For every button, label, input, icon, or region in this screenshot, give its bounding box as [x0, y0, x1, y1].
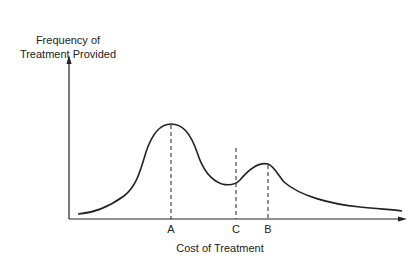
tick-label-b: B	[258, 223, 278, 235]
tick-label-c: C	[226, 223, 246, 235]
frequency-curve	[78, 124, 402, 214]
tick-label-a: A	[161, 223, 181, 235]
y-axis-label-line-1: Frequency of	[18, 33, 118, 47]
x-axis-label: Cost of Treatment	[150, 242, 290, 254]
y-axis-label-line-2: Treatment Provided	[18, 47, 118, 61]
x-axis-arrow-icon	[398, 217, 407, 222]
y-axis-label: Frequency of Treatment Provided	[18, 33, 118, 61]
treatment-frequency-diagram: Frequency of Treatment Provided A C B Co…	[0, 0, 408, 258]
